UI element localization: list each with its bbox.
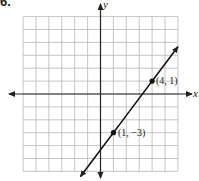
coordinate-plane: x y (4, 1) (1, −3) <box>0 0 199 181</box>
y-axis-label: y <box>102 0 108 10</box>
plotted-line <box>81 47 178 177</box>
point-label-1-neg3: (1, −3) <box>118 127 145 139</box>
axes <box>9 4 192 178</box>
point-label-4-1: (4, 1) <box>156 75 178 87</box>
x-axis-label: x <box>192 87 198 99</box>
